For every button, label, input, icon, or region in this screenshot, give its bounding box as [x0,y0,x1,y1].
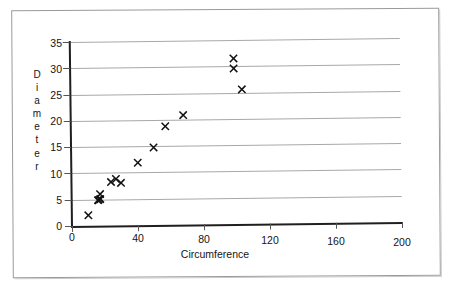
x-tick-label-80: 80 [189,234,219,245]
x-tick-80 [204,224,205,230]
data-point [237,85,246,94]
y-tick-group [0,0,451,1]
gridline-y-35 [70,38,400,43]
data-point [160,121,169,130]
data-point-group [0,0,451,1]
data-point [149,143,158,152]
data-point [229,64,238,73]
y-tick-25 [63,95,70,96]
gridline-y-10 [71,169,401,174]
data-point [178,111,187,120]
data-point [84,211,93,220]
y-axis-title-letter: e [30,120,44,133]
y-tick-label-0: 0 [38,221,62,231]
x-tick-label-40: 40 [123,233,153,244]
y-tick-15 [64,147,71,148]
y-tick-35 [63,42,70,43]
y-tick-10 [64,173,71,174]
y-tick-20 [64,121,71,122]
data-point [116,179,125,188]
gridline-y-25 [70,91,400,96]
x-tick-200 [402,222,403,228]
x-axis-title: Circumference [130,248,300,260]
y-axis-title-letter: r [30,160,44,173]
data-point [133,159,142,168]
gridline-y-15 [71,143,401,148]
x-tick-160 [336,223,337,229]
x-tick-40 [138,225,139,231]
chart-plot-surface [0,0,454,289]
scatter-plot-page: 05101520253035 04080120160200 Diameter C… [0,0,454,289]
y-axis-title-letter: a [30,94,44,107]
data-point [229,54,238,63]
y-tick-0 [65,226,72,227]
y-axis-title-letter: m [30,107,44,120]
x-tick-120 [270,224,271,230]
y-tick-label-35: 35 [38,38,62,48]
y-axis-title-letter: i [30,81,44,94]
x-tick-label-120: 120 [255,235,285,246]
data-point [95,190,104,199]
x-tick-label-160: 160 [321,236,351,247]
x-tick-group [0,0,451,1]
gridline-y-20 [71,117,401,122]
gridline-group [0,0,451,1]
y-tick-5 [65,200,72,201]
y-tick-30 [63,68,70,69]
y-axis-title-letter: D [30,68,44,81]
y-axis-title-letter: t [30,133,44,146]
y-tick-label-5: 5 [38,195,62,205]
chart-area: 05101520253035 04080120160200 Diameter C… [0,0,454,289]
x-tick-label-0: 0 [57,232,87,243]
gridline-y-5 [72,196,402,201]
y-axis-title: Diameter [30,68,44,173]
x-tick-label-200: 200 [387,237,417,248]
y-axis-title-letter: e [30,147,44,160]
x-axis-line [71,222,402,228]
